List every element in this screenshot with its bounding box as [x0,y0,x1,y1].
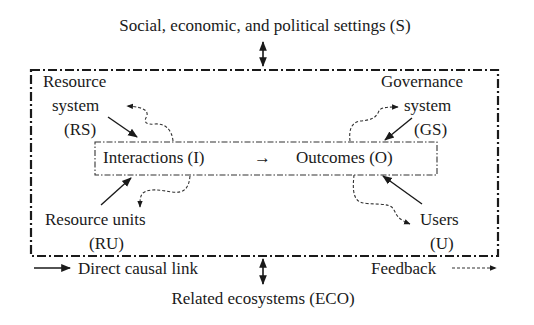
outcomes-label: Outcomes (O) [296,149,393,166]
resource-system-label-line2: system [52,97,99,114]
users-label-line1: Users [420,211,459,228]
interactions-label: Interactions (I) [103,149,204,166]
legend-direct-causal-link-label: Direct causal link [78,260,198,277]
ses-framework-diagram: Social, economic, and political settings… [0,0,534,325]
resource-units-label-line1: Resource units [45,211,146,228]
feedback-to-users-arrow [353,175,410,224]
related-ecosystems-label: Related ecosystems (ECO) [171,290,354,307]
users-label-line2: (U) [430,235,454,252]
feedback-to-rs-arrow [127,106,173,141]
ru-to-interactions-arrow [101,178,131,205]
governance-system-label-line1: Governance [381,73,463,90]
resource-system-label-line3: (RS) [64,121,96,138]
users-to-outcomes-arrow [383,176,422,204]
resource-units-label-line2: (RU) [89,235,124,252]
rs-to-interactions-arrow [108,117,137,137]
feedback-to-ru-arrow [140,176,190,207]
legend-feedback-label: Feedback [371,260,436,277]
interactions-to-outcomes-arrow-icon: → [254,149,271,166]
social-economic-political-settings-label: Social, economic, and political settings… [119,17,410,34]
governance-system-label-line3: (GS) [414,121,447,138]
gs-to-outcomes-arrow [385,118,412,140]
governance-system-label-line2: system [404,97,451,114]
resource-system-label-line1: Resource [43,73,106,90]
